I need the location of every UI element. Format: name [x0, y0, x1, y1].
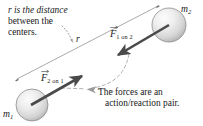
mass-label-m1-symbol: m [3, 108, 10, 119]
mass-label-m2-symbol: m [181, 3, 188, 14]
action-reaction-note: The forces are an action/reaction pair. [98, 87, 179, 109]
distance-label-r: r [76, 33, 80, 44]
mass-label-m1-subscript: 1 [10, 113, 13, 120]
vector-overbar-icon [110, 25, 118, 29]
mass-label-m2: m2 [181, 3, 191, 14]
distance-note-line-1: r is the distance [8, 5, 68, 15]
mass-label-m2-subscript: 2 [188, 8, 191, 15]
action-reaction-note-line-1: The forces are an [98, 87, 163, 97]
distance-note-line-3: centers. [8, 27, 37, 37]
action-reaction-note-line-2: action/reaction pair. [98, 98, 179, 109]
distance-note-line-2: between the [8, 16, 53, 26]
mass-label-m1: m1 [3, 108, 13, 119]
action-reaction-dashed-curve [89, 54, 129, 89]
force-label-1-on-2-subscript: 1 on 2 [116, 33, 133, 40]
vector-overbar-icon [41, 69, 49, 73]
force-label-1-on-2: F1 on 2 [110, 28, 133, 40]
force-label-2-on-1: F2 on 1 [41, 72, 64, 84]
dashed-curve-left-tail [61, 88, 84, 89]
force-label-2-on-1-subscript: 2 on 1 [47, 77, 64, 84]
distance-note: r is the distance between the centers. [8, 5, 68, 38]
dashed-curve-arrowhead [87, 86, 97, 93]
distance-line-end-tick-left [16, 79, 19, 80]
